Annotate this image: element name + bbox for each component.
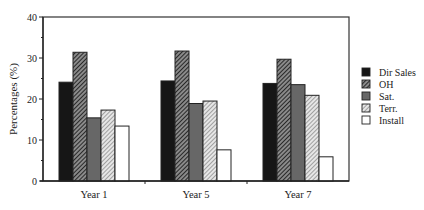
bar-sat xyxy=(87,118,101,181)
legend-label: OH xyxy=(379,79,393,90)
x-tick-label: Year 5 xyxy=(182,189,209,200)
bar-terr xyxy=(101,110,115,181)
legend-item: Sat. xyxy=(362,91,394,102)
bar-sat xyxy=(291,85,305,181)
legend-label: Dir Sales xyxy=(379,67,416,78)
y-tick-label: 0 xyxy=(32,176,37,187)
bar-dir-sales xyxy=(59,82,73,181)
bar-install xyxy=(115,126,129,181)
bar-terr xyxy=(203,101,217,181)
bar-group-year-5 xyxy=(161,51,231,181)
y-axis-label: Percentages (%) xyxy=(7,63,20,135)
bar-oh xyxy=(73,52,87,181)
legend-swatch xyxy=(362,92,370,100)
bar-group-year-1 xyxy=(59,52,129,181)
bar-install xyxy=(319,157,333,181)
y-tick-label: 20 xyxy=(27,94,37,105)
legend-swatch xyxy=(362,68,370,76)
legend: Dir SalesOHSat.Terr.Install xyxy=(362,67,416,126)
legend-label: Sat. xyxy=(379,91,394,102)
legend-label: Install xyxy=(379,115,404,126)
bar-install xyxy=(217,150,231,181)
bar-dir-sales xyxy=(161,81,175,181)
legend-swatch xyxy=(362,104,370,112)
y-tick-label: 30 xyxy=(27,53,37,64)
bar-group-year-7 xyxy=(263,59,333,181)
legend-item: OH xyxy=(362,79,393,90)
y-tick-label: 40 xyxy=(27,12,37,23)
y-tick-label: 10 xyxy=(27,135,37,146)
legend-item: Install xyxy=(362,115,404,126)
bars-group: Year 1Year 5Year 7 xyxy=(59,51,333,200)
legend-label: Terr. xyxy=(379,103,397,114)
x-tick-label: Year 7 xyxy=(284,189,311,200)
legend-swatch xyxy=(362,80,370,88)
legend-item: Terr. xyxy=(362,103,397,114)
bar-oh xyxy=(175,51,189,181)
x-tick-label: Year 1 xyxy=(80,189,107,200)
bar-sat xyxy=(189,104,203,181)
legend-swatch xyxy=(362,116,370,124)
bar-oh xyxy=(277,59,291,181)
bar-terr xyxy=(305,95,319,181)
grouped-bar-chart: Year 1Year 5Year 7 010203040Percentages … xyxy=(0,0,424,210)
legend-item: Dir Sales xyxy=(362,67,416,78)
bar-dir-sales xyxy=(263,83,277,181)
